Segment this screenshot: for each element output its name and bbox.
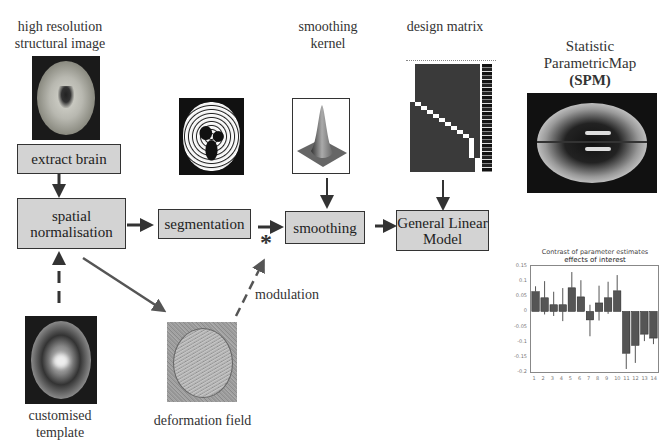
segmented-brain-image [179,98,244,175]
label-structural-image: high resolution structural image [10,18,110,52]
label-line: kernel [290,35,366,52]
bar [623,311,630,353]
label-design-matrix: design matrix [395,18,495,35]
deformation-field-image [167,322,237,402]
general-linear-model-box[interactable]: General Linear Model [396,210,489,251]
x-tick-label: 10 [614,375,620,381]
structural-mri-image [32,56,100,140]
x-tick-label: 14 [650,375,656,381]
x-tick-label: 8 [596,375,599,381]
y-tick-label: 0.05 [516,292,527,298]
label-smoothing-kernel: smoothing kernel [290,18,366,52]
bar [532,292,539,312]
x-tick-label: 3 [551,375,554,381]
contrast-bar-chart: Contrast of parameter estimates effects … [505,245,672,395]
x-tick-label: 7 [587,375,590,381]
x-tick-label: 6 [578,375,581,381]
chart-x-axis: 1234567891011121314 [530,375,659,385]
segmentation-box[interactable]: segmentation [158,209,251,239]
chart-plot-area [530,265,659,373]
box-line: Model [423,231,462,247]
customised-template-image [25,316,97,404]
y-tick-label: 0 [524,307,527,313]
label-spm: Statistic ParametricMap (SPM) [535,38,645,89]
bar [568,288,575,312]
bar [613,291,620,312]
y-tick-label: -0.2 [517,368,527,374]
design-matrix-image [406,60,498,175]
label-line: template [10,424,110,441]
box-line: General Linear [397,215,487,231]
chart-y-axis: 0.150.10.050-0.05-0.1-0.15-0.2 [505,265,529,373]
x-tick-label: 12 [632,375,638,381]
x-tick-label: 11 [623,375,629,381]
y-tick-label: -0.15 [514,353,527,359]
extract-brain-box[interactable]: extract brain [17,144,121,174]
y-tick-label: 0.1 [519,277,527,283]
arrow-normalise-to-deformation [83,258,163,310]
x-tick-label: 1 [533,375,536,381]
label-deformation-field: deformation field [145,412,260,429]
label-line: structural image [10,35,110,52]
label-line: smoothing [290,18,366,35]
spatial-normalisation-box[interactable]: spatial normalisation [17,198,126,249]
x-tick-label: 4 [560,375,563,381]
label-line: Statistic [535,38,645,55]
chart-subtitle: effects of interest [525,256,665,264]
bar [632,311,639,345]
label-line: customised [10,407,110,424]
x-tick-label: 5 [569,375,572,381]
label-customised-template: customised template [10,407,110,441]
smoothing-kernel-image [292,98,350,174]
spm-brain-image [527,93,657,193]
label-line: (SPM) [535,72,645,89]
smoothing-box[interactable]: smoothing [285,211,365,244]
label-line: ParametricMap [535,55,645,72]
box-line: normalisation [30,224,113,240]
x-tick-label: 13 [641,375,647,381]
bar [650,311,657,338]
bar-series [531,266,658,372]
label-modulation: modulation [252,286,322,303]
box-line: spatial [52,208,91,224]
y-tick-label: 0.15 [516,262,527,268]
asterisk-symbol: * [260,230,272,254]
y-tick-label: -0.1 [517,338,527,344]
label-line: high resolution [10,18,110,35]
x-tick-label: 9 [605,375,608,381]
y-tick-label: -0.05 [514,323,527,329]
bar [577,297,584,312]
x-tick-label: 2 [542,375,545,381]
bar [641,311,648,334]
chart-title: Contrast of parameter estimates [525,248,665,256]
